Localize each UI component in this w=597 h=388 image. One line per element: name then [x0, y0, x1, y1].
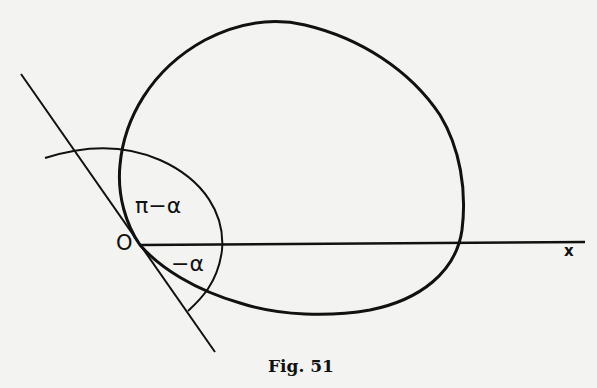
- x-axis-label: x: [564, 244, 574, 259]
- lower-angle-label: −α: [171, 253, 204, 275]
- figure-page: O x π−α −α Fig. 51: [0, 0, 597, 388]
- upper-angle-label: π−α: [135, 195, 181, 217]
- tangent-line: [21, 74, 215, 352]
- figure-diagram: [0, 0, 597, 388]
- origin-label: O: [116, 233, 133, 254]
- figure-caption: Fig. 51: [268, 358, 334, 375]
- x-axis-line: [140, 242, 585, 245]
